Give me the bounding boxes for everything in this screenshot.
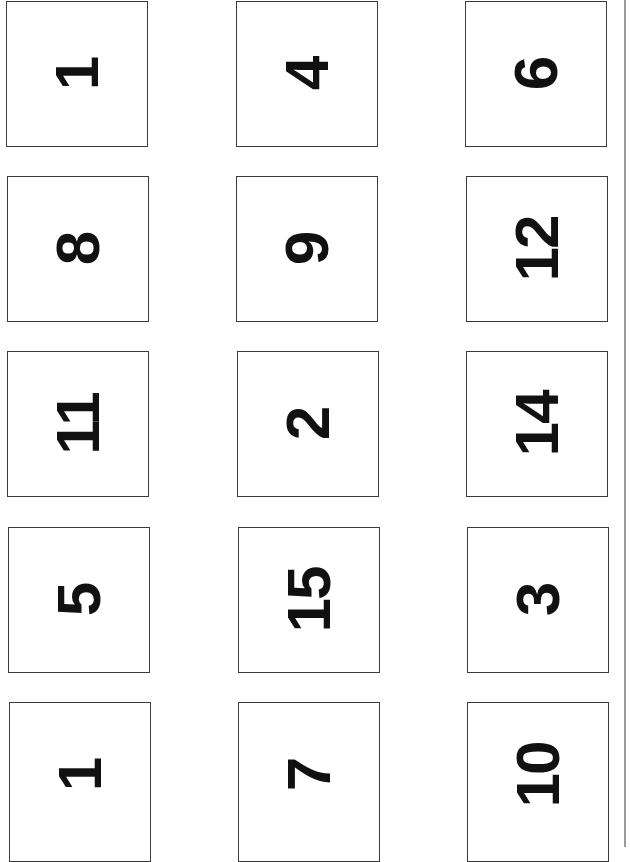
- number-card: 9: [236, 176, 378, 322]
- card-number: 10: [507, 743, 569, 808]
- card-number: 1: [46, 58, 108, 90]
- number-card: 3: [467, 527, 609, 673]
- card-number: 1: [49, 759, 111, 791]
- number-card: 10: [467, 702, 609, 862]
- card-number: 15: [278, 568, 340, 633]
- card-number: 3: [507, 584, 569, 616]
- number-card: 7: [238, 702, 380, 862]
- number-card: 5: [8, 527, 150, 673]
- card-number: 12: [506, 217, 568, 282]
- card-number: 6: [505, 58, 567, 90]
- card-number: 11: [47, 393, 109, 455]
- card-number: 8: [47, 233, 109, 265]
- card-number: 7: [278, 759, 340, 791]
- number-card: 1: [6, 1, 148, 147]
- number-card: 4: [236, 1, 378, 147]
- number-card: 1: [9, 702, 151, 862]
- number-card: 2: [237, 351, 379, 497]
- number-card: 11: [7, 351, 149, 497]
- page-edge-divider: [624, 0, 626, 847]
- card-number: 4: [276, 58, 338, 90]
- number-card: 14: [466, 351, 608, 497]
- number-card: 15: [238, 527, 380, 673]
- number-card: 6: [465, 1, 607, 147]
- number-card: 8: [7, 176, 149, 322]
- card-number: 14: [506, 392, 568, 457]
- card-number: 5: [48, 584, 110, 616]
- card-number: 2: [277, 408, 339, 440]
- number-card: 12: [466, 176, 608, 322]
- card-number: 9: [276, 233, 338, 265]
